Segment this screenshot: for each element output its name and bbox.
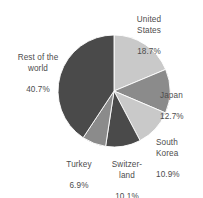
pie-label-south-korea: South Korea 10.9% xyxy=(156,128,203,190)
pie-label-rest-of-world-name: Rest of the world xyxy=(2,53,74,74)
pie-chart: United States 18.7% Japan 12.7% South Ko… xyxy=(0,0,203,198)
pie-label-switzerland-value: 10.1% xyxy=(102,192,152,198)
pie-label-south-korea-name: South Korea xyxy=(156,138,203,159)
pie-label-japan: Japan 12.7% xyxy=(160,81,203,133)
pie-label-united-states-value: 18.7% xyxy=(118,47,180,57)
pie-label-turkey: Turkey 6.9% xyxy=(54,150,104,198)
pie-label-switzerland-name: Switzer- land xyxy=(102,160,152,181)
pie-label-turkey-name: Turkey xyxy=(54,160,104,170)
pie-label-rest-of-world-value: 40.7% xyxy=(2,85,74,95)
pie-label-turkey-value: 6.9% xyxy=(54,181,104,191)
pie-label-japan-name: Japan xyxy=(160,91,203,101)
pie-label-south-korea-value: 10.9% xyxy=(156,170,203,180)
pie-label-rest-of-world: Rest of the world 40.7% xyxy=(2,43,74,105)
pie-label-japan-value: 12.7% xyxy=(160,112,203,122)
pie-label-united-states-name: United States xyxy=(118,15,180,36)
pie-label-united-states: United States 18.7% xyxy=(118,5,180,67)
pie-label-switzerland: Switzer- land 10.1% xyxy=(102,150,152,198)
